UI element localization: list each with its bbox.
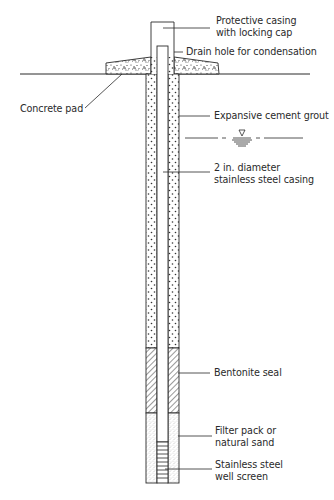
- label-steel-casing: 2 in. diameter stainless steel casing: [214, 162, 314, 185]
- bentonite-seal-left: [146, 348, 157, 413]
- concrete-pad-right: [174, 57, 219, 74]
- label-drain-hole: Drain hole for condensation: [186, 46, 317, 58]
- cement-grout-right: [168, 74, 179, 348]
- label-well-screen: Stainless steel well screen: [215, 459, 283, 482]
- label-concrete-pad: Concrete pad: [20, 103, 83, 115]
- label-protective-casing: Protective casing with locking cap: [216, 15, 297, 38]
- steel-casing: [157, 46, 168, 442]
- water-table-icon: [185, 130, 303, 146]
- filter-pack-right: [168, 413, 179, 483]
- label-filter-pack: Filter pack or natural sand: [215, 425, 276, 448]
- label-cement-grout: Expansive cement grout: [214, 110, 329, 122]
- label-bentonite-seal: Bentonite seal: [214, 367, 282, 379]
- cement-grout-left: [146, 74, 157, 348]
- filter-pack-left: [146, 413, 157, 483]
- grout-upper-left: [151, 57, 157, 74]
- leader-concrete-pad: [85, 74, 122, 108]
- concrete-pad: [106, 57, 151, 74]
- grout-upper-right: [168, 57, 174, 74]
- bentonite-seal-right: [168, 348, 179, 413]
- well-diagram: [0, 0, 334, 500]
- well-screen: [157, 442, 168, 483]
